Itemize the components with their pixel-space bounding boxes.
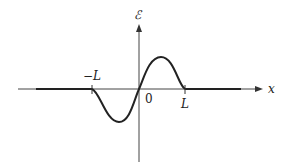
wave-diagram: x ℰ −L L 0 [0, 0, 287, 167]
tick-label-L: L [180, 97, 189, 111]
tick-label-minus-L: −L [83, 69, 101, 83]
x-axis-label: x [268, 82, 275, 96]
x-axis-arrow-icon [255, 86, 263, 92]
y-axis-arrow-icon [136, 24, 142, 32]
y-axis-label: ℰ [134, 8, 143, 22]
origin-label: 0 [145, 92, 153, 106]
